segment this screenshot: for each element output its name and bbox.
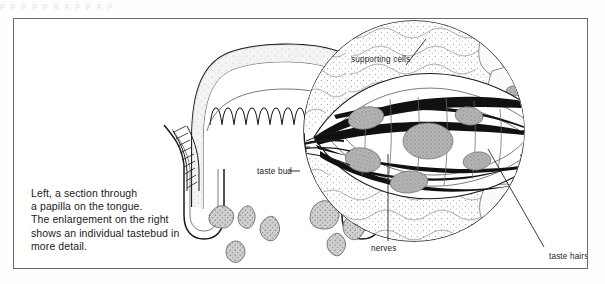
taste-hairs-strands <box>520 121 572 171</box>
label-taste-hairs: taste hairs <box>549 252 588 261</box>
page-top-scan-artifact: p p p p p g g p p g p <box>0 0 605 12</box>
label-supporting-cells: supporting cells <box>351 55 410 64</box>
label-taste-bud: taste bud <box>257 167 292 176</box>
caption-line-5: more detail. <box>31 240 246 253</box>
figure-caption: Left, a section through a papilla on the… <box>31 187 246 253</box>
label-nerves: nerves <box>371 244 396 253</box>
nucleus-central <box>403 123 453 159</box>
caption-line-3: The enlargement on the right <box>31 213 246 226</box>
caption-line-2: a papilla on the tongue. <box>31 200 246 213</box>
caption-line-4: shows an individual tastebud in <box>31 227 246 240</box>
taste-bud-enlargement <box>300 19 572 268</box>
caption-line-1: Left, a section through <box>31 187 246 200</box>
figure-frame: taste bud supporting cells nerves taste … <box>13 18 588 269</box>
